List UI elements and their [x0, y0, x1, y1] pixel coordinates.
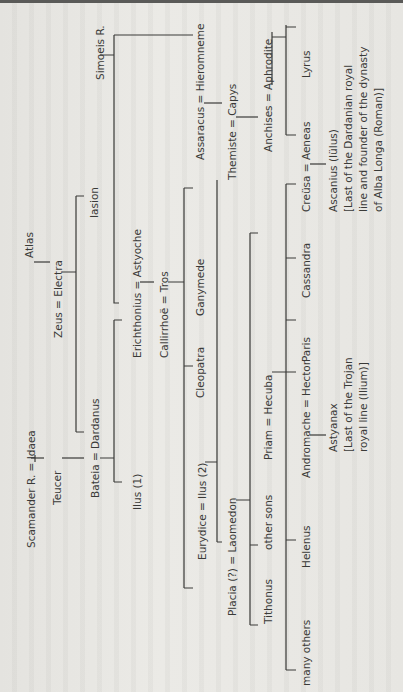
label-scamander-idaea: Scamander R. = Idaea	[25, 430, 37, 548]
label-andromache-hector: Andromache = Hector	[300, 360, 312, 478]
label-assaracus-hieromneme: Assaracus = Hieromneme	[194, 24, 206, 161]
family-tree: Simoeis R. Atlas Zeus = Electra Iasion S…	[0, 0, 403, 692]
label-iasion: Iasion	[88, 187, 100, 218]
label-zeus-electra: Zeus = Electra	[52, 260, 64, 338]
ascanius-line-4: of Alba Longa (Roman)]	[372, 88, 384, 212]
label-lyrus: Lyrus	[300, 50, 312, 78]
label-callirrhoe-tros: Callirrhoë = Tros	[158, 271, 170, 358]
label-atlas: Atlas	[23, 232, 35, 258]
tree-labels: Simoeis R. Atlas Zeus = Electra Iasion S…	[23, 24, 384, 687]
label-creusa-aeneas: Creüsa = Aeneas	[300, 122, 312, 212]
tree-lines	[31, 25, 326, 670]
line-zeus-children	[62, 196, 84, 432]
line-laomedon-children	[236, 233, 258, 625]
label-simoeis: Simoeis R.	[94, 25, 106, 80]
ascanius-line-2: [Last of the Dardanian royal	[342, 65, 354, 212]
label-ilus-1: Ilus (1)	[131, 474, 143, 510]
label-paris: Paris	[300, 337, 312, 362]
book-page: Simoeis R. Atlas Zeus = Electra Iasion S…	[0, 0, 403, 692]
astyanax-line-2: [Last of the Trojan	[342, 357, 354, 452]
label-anchises-aphrodite: Anchises = Aphrodite	[262, 39, 274, 152]
ascanius-line-1: Ascanius (Iülus)	[327, 129, 339, 212]
astyanax-line-3: royal line (Ilium)]	[357, 362, 369, 452]
ascanius-note: Ascanius (Iülus) [Last of the Dardanian …	[327, 47, 384, 212]
label-erichthonius-astyoche: Erichthonius = Astyoche	[131, 229, 143, 358]
label-themiste-capys: Themiste = Capys	[226, 84, 238, 181]
label-eurydice-ilus-2: Eurydice = Ilus (2)	[196, 463, 208, 560]
ascanius-line-3: line and founder of the dynasty	[357, 47, 369, 212]
label-teucer: Teucer	[51, 470, 63, 506]
label-priam-hecuba: Priam = Hecuba	[262, 375, 274, 460]
astyanax-note: Astyanax [Last of the Trojan royal line …	[327, 357, 369, 452]
label-cassandra: Cassandra	[300, 243, 312, 298]
label-other-sons: other sons	[262, 495, 274, 550]
line-anchises-children	[272, 25, 296, 135]
label-cleopatra: Cleopatra	[194, 347, 206, 398]
line-simoeis	[100, 35, 193, 245]
line-dardanus-children	[100, 320, 122, 482]
line-simoeis-astyoche	[114, 245, 119, 303]
label-tithonus: Tithonus	[262, 579, 274, 625]
label-ganymede: Ganymede	[194, 259, 206, 316]
label-placia-laomedon: Placia (?) = Laomedon	[226, 497, 238, 616]
line-priam-children	[272, 184, 296, 670]
label-many-others: many others	[300, 620, 312, 686]
astyanax-line-1: Astyanax	[327, 403, 339, 452]
label-helenus: Helenus	[300, 525, 312, 568]
line-tros-children	[168, 188, 193, 588]
label-bateia-dardanus: Bateia = Dardanus	[89, 398, 101, 498]
